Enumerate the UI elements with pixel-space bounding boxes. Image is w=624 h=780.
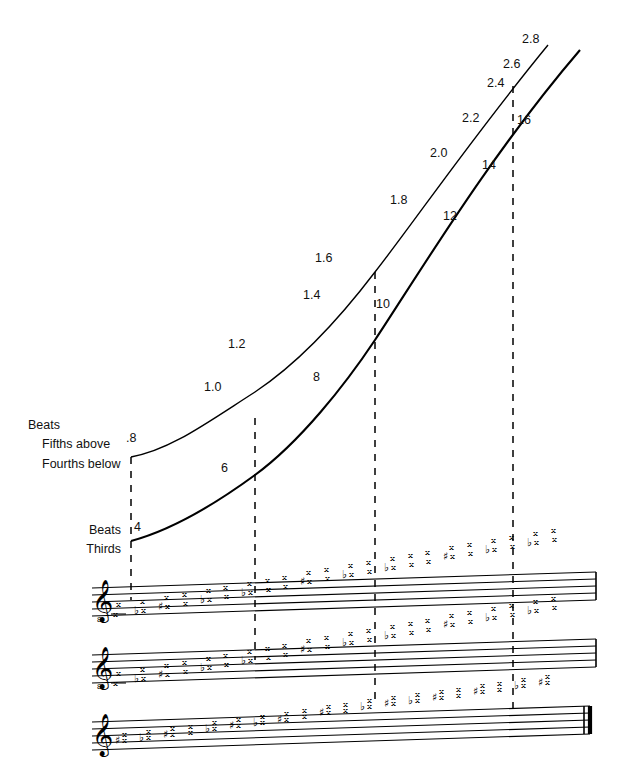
curve-label-lower-6: 16 <box>517 114 531 127</box>
svg-text:♯: ♯ <box>300 575 305 588</box>
svg-text:♯: ♯ <box>300 643 305 656</box>
svg-text:𝄪: 𝄪 <box>509 530 514 543</box>
svg-text:𝄪: 𝄪 <box>265 573 270 586</box>
svg-text:𝄪: 𝄪 <box>425 545 430 558</box>
svg-text:♭: ♭ <box>342 636 347 649</box>
svg-text:♭: ♭ <box>200 661 205 674</box>
clef-octave-8: 8 <box>97 615 102 624</box>
upper-caption-line1: Beats <box>28 416 121 435</box>
svg-text:𝄪: 𝄪 <box>260 709 265 722</box>
svg-text:𝄪: 𝄪 <box>390 551 395 564</box>
svg-text:♭: ♭ <box>384 629 389 642</box>
svg-text:♭: ♭ <box>139 731 144 744</box>
upper-caption-line2: Fifths above <box>28 435 121 454</box>
svg-text:𝄪: 𝄪 <box>343 697 348 710</box>
svg-text:𝄪: 𝄪 <box>206 651 211 664</box>
svg-text:♭: ♭ <box>134 672 139 685</box>
staff-system-3: 𝄞 ♯𝄪 𝄪 ♭𝄪 𝄪 ♯𝄪 𝄪 𝄪𝄪 ♭𝄪 𝄪 ♯𝄪 𝄪 ♭𝄪 𝄪 ♯𝄪 𝄪 … <box>92 669 590 757</box>
svg-text:𝄪: 𝄪 <box>408 548 413 561</box>
curve-label-lower-4: 12 <box>443 210 457 223</box>
svg-text:𝄪: 𝄪 <box>497 676 502 689</box>
svg-text:𝄪: 𝄪 <box>247 576 252 589</box>
svg-text:♯: ♯ <box>163 728 168 741</box>
curve-label-lower-5: 14 <box>482 159 496 172</box>
svg-text:𝄪: 𝄪 <box>306 633 311 646</box>
svg-text:♭: ♭ <box>241 586 246 599</box>
svg-text:♯: ♯ <box>432 691 437 704</box>
svg-text:♭: ♭ <box>514 679 519 692</box>
svg-text:♭: ♭ <box>342 568 347 581</box>
svg-text:𝄪: 𝄪 <box>324 562 329 575</box>
svg-text:𝄪: 𝄪 <box>366 623 371 636</box>
svg-text:𝄪: 𝄪 <box>348 626 353 639</box>
curve-label-upper-8: 2.4 <box>487 77 504 90</box>
svg-text:♭: ♭ <box>527 536 532 549</box>
curve-label-upper-9: 2.6 <box>503 58 520 71</box>
svg-text:♭: ♭ <box>408 694 413 707</box>
treble-clef-icon: 𝄞 <box>92 647 113 690</box>
lower-caption-line2: Thirds <box>25 540 121 559</box>
svg-text:𝄪: 𝄪 <box>164 658 169 671</box>
svg-text:𝄪: 𝄪 <box>206 583 211 596</box>
curve-label-upper-0: .8 <box>126 432 136 445</box>
curve-label-lower-1: 6 <box>221 462 228 475</box>
dashed-gridlines <box>131 86 513 712</box>
svg-text:♭: ♭ <box>205 722 210 735</box>
svg-text:𝄪: 𝄪 <box>533 594 538 607</box>
svg-text:𝄪: 𝄪 <box>449 608 454 621</box>
svg-text:𝄪: 𝄪 <box>415 687 420 700</box>
svg-text:𝄪: 𝄪 <box>366 555 371 568</box>
svg-text:𝄪: 𝄪 <box>326 699 331 712</box>
svg-text:𝄪: 𝄪 <box>182 655 187 668</box>
svg-text:𝄪: 𝄪 <box>509 598 514 611</box>
svg-text:♯: ♯ <box>158 668 163 681</box>
svg-text:♭: ♭ <box>134 604 139 617</box>
svg-text:♭: ♭ <box>253 716 258 729</box>
svg-text:♭: ♭ <box>241 654 246 667</box>
curve-label-lower-3: 10 <box>376 298 390 311</box>
svg-text:𝄪: 𝄪 <box>212 715 217 728</box>
svg-text:𝄪: 𝄪 <box>282 638 287 651</box>
lower-curve-caption: Beats Thirds <box>25 521 121 560</box>
svg-text:♯: ♯ <box>538 676 543 689</box>
svg-text:♯: ♯ <box>384 697 389 710</box>
upper-caption-line3: Fourths below <box>28 455 121 474</box>
svg-text:𝄪: 𝄪 <box>188 719 193 732</box>
svg-text:𝄪: 𝄪 <box>265 641 270 654</box>
curve-label-lower-2: 8 <box>313 371 320 384</box>
svg-text:𝄪: 𝄪 <box>391 690 396 703</box>
svg-text:♭: ♭ <box>384 561 389 574</box>
treble-clef-icon: 𝄞 <box>92 714 113 757</box>
svg-text:𝄪: 𝄪 <box>408 616 413 629</box>
svg-text:♯: ♯ <box>115 734 120 747</box>
svg-text:♯: ♯ <box>443 618 448 631</box>
svg-text:♯: ♯ <box>443 550 448 563</box>
svg-text:𝄪: 𝄪 <box>491 533 496 546</box>
svg-text:𝄪: 𝄪 <box>140 594 145 607</box>
curve-label-upper-4: 1.6 <box>315 252 332 265</box>
svg-text:𝄪: 𝄪 <box>545 669 550 682</box>
curve-label-upper-1: 1.0 <box>204 381 221 394</box>
svg-text:𝄪: 𝄪 <box>236 712 241 725</box>
svg-text:𝄪: 𝄪 <box>170 721 175 734</box>
svg-text:𝄪: 𝄪 <box>449 540 454 553</box>
svg-text:𝄪: 𝄪 <box>480 678 485 691</box>
curve-fifths-fourths <box>131 45 548 457</box>
svg-text:♯: ♯ <box>158 600 163 613</box>
svg-text:𝄪: 𝄪 <box>456 682 461 695</box>
svg-text:𝄪: 𝄪 <box>223 580 228 593</box>
svg-text:𝄪: 𝄪 <box>467 605 472 618</box>
curve-label-upper-10: 2.8 <box>522 33 539 46</box>
svg-text:𝄪: 𝄪 <box>390 619 395 632</box>
svg-text:𝄪: 𝄪 <box>247 644 252 657</box>
svg-text:♭: ♭ <box>485 611 490 624</box>
svg-text:♯: ♯ <box>319 706 324 719</box>
svg-text:♭: ♭ <box>200 593 205 606</box>
staff-system-1: 𝄞 8 𝄪𝄪 ♭𝄪 𝄪 ♯𝄪 𝄪 𝄪𝄪 ♭𝄪 𝄪 𝄪𝄪 ♭𝄪 𝄪 𝄪𝄪 𝄪𝄪 <box>92 523 596 624</box>
svg-text:𝄪: 𝄪 <box>467 537 472 550</box>
svg-text:𝄪: 𝄪 <box>551 591 556 604</box>
curve-label-upper-3: 1.4 <box>303 289 320 302</box>
svg-text:♭: ♭ <box>360 700 365 713</box>
svg-text:𝄪: 𝄪 <box>439 684 444 697</box>
curve-label-upper-5: 1.8 <box>390 194 407 207</box>
